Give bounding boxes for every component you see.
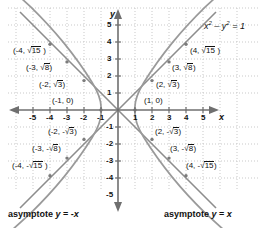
asymptote-caption-right: asymptote y = x: [164, 210, 232, 219]
point-dot: [184, 174, 187, 177]
point-label-4-neg-sqrt15: (4, -√15): [186, 161, 217, 170]
x-axis-arrow-left: [9, 106, 19, 114]
point-dot: [167, 60, 170, 63]
point-dot: [184, 43, 187, 46]
hyperbola-right-branch: [135, 0, 222, 228]
x-axis-label: x: [219, 113, 224, 122]
asymptote-caption-left: asymptote y = -x: [8, 210, 79, 219]
x-tick--2: -2: [80, 114, 87, 122]
x-tick--5: -5: [29, 114, 36, 122]
y-tick-4: 4: [107, 38, 111, 46]
point-dot: [82, 138, 85, 141]
point-label-vertex-right: (1, 0): [144, 97, 163, 105]
y-tick--2: -2: [106, 140, 113, 148]
x-tick-4: 4: [184, 114, 188, 122]
point-dot: [65, 156, 68, 159]
point-label-neg3-sqrt8: (-3, √8): [26, 63, 52, 72]
x-tick--1: -1: [97, 114, 104, 122]
x-tick--3: -3: [63, 114, 70, 122]
point-label-neg2-sqrt3: (-2, √3): [39, 80, 65, 89]
x-tick-3: 3: [167, 114, 171, 122]
point-dot: [150, 79, 153, 82]
point-dot: [82, 79, 85, 82]
y-tick-5: 5: [107, 21, 111, 29]
point-dot: [167, 156, 170, 159]
point-label-2-sqrt3: (2, √3): [156, 80, 180, 89]
equation-label: x2 – y2 = 1: [204, 22, 245, 31]
hyperbola-figure: y x -5 -4 -3 -2 -1 1 2 3 4 5 5 4 3 2 1 -…: [0, 0, 271, 228]
point-label-neg2-neg-sqrt3: (-2, -√3): [48, 127, 77, 136]
point-label-neg4-neg-sqrt15: (-4, -√15 ): [12, 161, 48, 170]
hyperbola-left-branch: [14, 0, 101, 228]
y-axis-arrow-up: [114, 9, 122, 19]
point-label-vertex-left: (-1, 0): [52, 97, 73, 105]
point-dot: [65, 60, 68, 63]
point-label-neg4-sqrt15: (-4, √15 ): [13, 46, 46, 55]
point-dot: [48, 174, 51, 177]
x-axis-arrow-right: [209, 106, 219, 114]
point-label-4-sqrt15: (4, √15 ): [190, 46, 220, 55]
y-tick-3: 3: [107, 55, 111, 63]
point-dot: [150, 138, 153, 141]
point-label-3-sqrt8: (3, √8): [172, 63, 196, 72]
x-tick-1: 1: [133, 114, 137, 122]
x-tick--4: -4: [46, 114, 53, 122]
y-tick-2: 2: [107, 72, 111, 80]
y-tick--5: -5: [106, 191, 113, 199]
point-dot: [48, 43, 51, 46]
x-tick-2: 2: [150, 114, 154, 122]
y-tick--4: -4: [106, 174, 113, 182]
y-tick--3: -3: [106, 157, 113, 165]
x-tick-5: 5: [201, 114, 205, 122]
point-label-2-neg-sqrt3: (2, -√3): [155, 127, 181, 136]
y-axis-label: y: [110, 10, 115, 19]
y-tick--1: -1: [106, 123, 113, 131]
y-axis-arrow-down: [114, 202, 122, 212]
y-tick-1: 1: [107, 89, 111, 97]
point-label-neg3-neg-sqrt8: (-3, -√8): [32, 144, 61, 153]
point-label-3-neg-sqrt8: (3, -√8): [170, 144, 196, 153]
